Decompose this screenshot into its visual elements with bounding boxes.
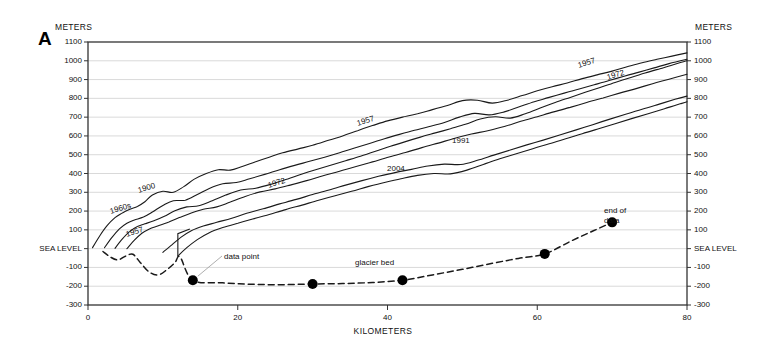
- x-tick-label: 60: [522, 313, 552, 322]
- y-tick-label-left: -100: [10, 262, 82, 271]
- y-tick-label-right: 100: [694, 225, 707, 234]
- y-tick-label-left: 1100: [10, 37, 82, 46]
- y-tick-label-left: 400: [10, 169, 82, 178]
- glacier-profile-figure: A METERS METERS KILOMETERS 1100110010001…: [0, 0, 764, 348]
- y-tick-label-right: 200: [694, 206, 707, 215]
- y-tick-label-right: SEA LEVEL: [694, 244, 737, 253]
- y-tick-label-right: 700: [694, 112, 707, 121]
- y-tick-label-right: -100: [694, 262, 710, 271]
- y-tick-label-right: 500: [694, 150, 707, 159]
- y-tick-label-right: 900: [694, 75, 707, 84]
- y-tick-label-right: -200: [694, 281, 710, 290]
- curve-label-1991: 1991: [452, 136, 470, 145]
- series-line-1972: [127, 74, 687, 248]
- y-tick-label-right: 1100: [694, 37, 711, 46]
- data-point-marker: [540, 249, 550, 259]
- y-tick-label-left: -300: [10, 300, 82, 309]
- y-tick-label-left: 300: [10, 187, 82, 196]
- y-tick-label-right: 600: [694, 131, 707, 140]
- y-tick-label-left: 100: [10, 225, 82, 234]
- y-tick-label-right: 400: [694, 169, 707, 178]
- y-tick-label-left: 800: [10, 93, 82, 102]
- y-tick-label-left: 900: [10, 75, 82, 84]
- end-of-data-annotation: end ofdata: [604, 206, 626, 226]
- series-line-glacier-bed: [103, 222, 612, 284]
- y-tick-label-right: 300: [694, 187, 707, 196]
- y-tick-label-right: 1000: [694, 56, 712, 65]
- y-tick-label-right: -300: [694, 300, 710, 309]
- data-point-marker: [308, 279, 318, 289]
- data-point-annotation: data point: [224, 252, 259, 262]
- data-point-marker: [188, 275, 198, 285]
- x-tick-label: 80: [672, 313, 702, 322]
- data-point-leader-line: [198, 256, 222, 276]
- y-tick-label-left: 1000: [10, 56, 82, 65]
- x-tick-label: 20: [223, 313, 253, 322]
- y-tick-label-left: 200: [10, 206, 82, 215]
- curve-label-2004: 2004: [387, 164, 405, 173]
- x-tick-label: 40: [373, 313, 403, 322]
- y-tick-label-left: 500: [10, 150, 82, 159]
- x-tick-label: 0: [73, 313, 103, 322]
- y-tick-label-left: SEA LEVEL: [10, 244, 82, 253]
- y-tick-label-right: 800: [694, 93, 707, 102]
- glacier-bed-annotation: glacier bed: [355, 258, 394, 268]
- data-point-marker: [397, 275, 407, 285]
- y-tick-label-left: -200: [10, 281, 82, 290]
- y-tick-label-left: 700: [10, 112, 82, 121]
- y-tick-label-left: 600: [10, 131, 82, 140]
- series-line-1900: [93, 53, 688, 248]
- plot-canvas: [0, 0, 764, 348]
- series-line-2004: [178, 102, 687, 257]
